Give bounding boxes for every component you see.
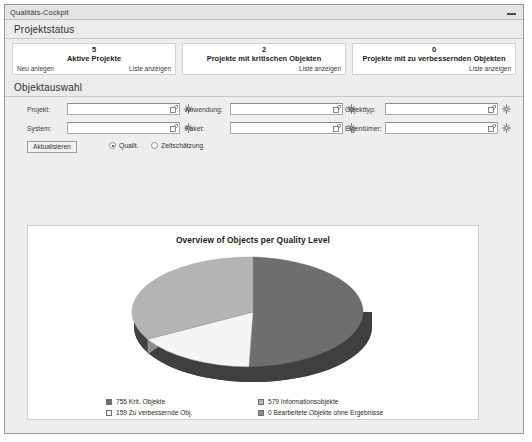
tile-link-list[interactable]: Liste anzeigen xyxy=(469,65,511,72)
anwendung-input[interactable] xyxy=(230,103,343,115)
field-label-anwendung: Anwendung: xyxy=(185,106,230,113)
tile-count: 0 xyxy=(353,45,515,54)
legend-entry-bearbeitete-objekte: 0 Bearbeitete Objekte ohne Ergebnisse xyxy=(258,409,436,416)
field-input-wrap-anwendung xyxy=(230,103,343,115)
quality-cockpit-window: Qualitäts-Cockpit Projektstatus 5 Aktive… xyxy=(4,4,524,434)
tile-link-new[interactable]: Neu anlegen xyxy=(17,65,54,72)
legend-swatch xyxy=(258,399,264,405)
legend-entry-zu-verbessernde-obj: 159 Zu verbessernde Obj. xyxy=(106,409,258,416)
legend-swatch xyxy=(106,399,112,405)
pie-chart-svg xyxy=(131,254,375,382)
field-row-2: System: xyxy=(5,122,523,141)
legend-swatch xyxy=(106,410,112,416)
system-input[interactable] xyxy=(67,122,180,134)
tile-label: Projekte mit kritischen Objekten xyxy=(183,54,345,63)
personalize-icon[interactable] xyxy=(502,104,511,114)
tile-count: 5 xyxy=(13,45,175,54)
status-tile-improvable-objects[interactable]: 0 Projekte mit zu verbessernden Objekten… xyxy=(352,43,516,75)
radio-dot-unselected[interactable] xyxy=(151,142,158,149)
field-input-wrap-system xyxy=(67,122,180,134)
tile-label: Projekte mit zu verbessernden Objekten xyxy=(353,54,515,63)
field-input-wrap-projekt xyxy=(67,103,180,115)
tile-label: Aktive Projekte xyxy=(13,54,175,63)
legend-label: 159 Zu verbessernde Obj. xyxy=(116,409,192,416)
field-label-system: System: xyxy=(27,125,67,132)
radio-option-qualitaet[interactable]: Qualit. xyxy=(109,142,139,149)
paket-input[interactable] xyxy=(230,122,343,134)
field-input-wrap-objekttyp xyxy=(385,103,498,115)
field-system: System: xyxy=(27,122,193,134)
field-anwendung: Anwendung: xyxy=(185,103,356,115)
object-selection-title: Objektauswahl xyxy=(14,82,82,93)
field-label-paket: Paket: xyxy=(185,125,230,132)
personalize-icon[interactable] xyxy=(502,123,511,133)
tile-link-list[interactable]: Liste anzeigen xyxy=(299,65,341,72)
status-tile-critical-objects[interactable]: 2 Projekte mit kritischen Objekten Liste… xyxy=(182,43,346,75)
field-objekttyp: Objekttyp: xyxy=(345,103,511,115)
object-selection-form: Projekt: xyxy=(5,97,523,157)
value-help-icon[interactable] xyxy=(333,124,341,132)
radio-label-zeitschaetzung: Zeitschätzung xyxy=(161,142,203,149)
value-help-icon[interactable] xyxy=(170,105,178,113)
tile-count: 2 xyxy=(183,45,345,54)
legend-swatch xyxy=(258,410,264,416)
window-title-bar: Qualitäts-Cockpit xyxy=(5,5,523,20)
radio-option-zeitschaetzung[interactable]: Zeitschätzung xyxy=(151,142,203,149)
field-label-eigentuemer: Eigentümer: xyxy=(345,125,385,132)
project-status-header: Projektstatus xyxy=(5,20,523,39)
value-help-icon[interactable] xyxy=(333,105,341,113)
legend-entry-informationsobjekte: 579 Informationsobjekte xyxy=(258,398,436,405)
tile-link-list[interactable]: Liste anzeigen xyxy=(129,65,171,72)
chart-title: Overview of Objects per Quality Level xyxy=(28,235,478,245)
legend-label: 0 Bearbeitete Objekte ohne Ergebnisse xyxy=(268,409,383,416)
field-projekt: Projekt: xyxy=(27,103,193,115)
action-row: Aktualisieren Qualit. Zeitschätzung xyxy=(5,141,523,157)
pie-top-face xyxy=(132,257,363,367)
status-tile-active-projects[interactable]: 5 Aktive Projekte Neu anlegen Liste anze… xyxy=(12,43,176,75)
objekttyp-input[interactable] xyxy=(385,103,498,115)
legend-label: 755 Krit. Objekte xyxy=(116,398,165,405)
object-selection-header: Objektauswahl xyxy=(5,78,523,97)
field-label-objekttyp: Objekttyp: xyxy=(345,106,385,113)
legend-entry-krit-objekte: 755 Krit. Objekte xyxy=(106,398,258,405)
field-row-1: Projekt: xyxy=(5,103,523,122)
field-input-wrap-paket xyxy=(230,122,343,134)
projekt-input[interactable] xyxy=(67,103,180,115)
legend-label: 579 Informationsobjekte xyxy=(268,398,338,405)
field-input-wrap-eigentuemer xyxy=(385,122,498,134)
value-help-icon[interactable] xyxy=(488,105,496,113)
pie-chart xyxy=(131,254,375,382)
radio-label-qualitaet: Qualit. xyxy=(119,142,139,149)
minimize-dash xyxy=(507,13,516,15)
value-help-icon[interactable] xyxy=(488,124,496,132)
chart-panel: Overview of Objects per Quality Level xyxy=(27,225,479,420)
project-status-title: Projektstatus xyxy=(14,24,74,35)
status-tiles-container: 5 Aktive Projekte Neu anlegen Liste anze… xyxy=(5,39,523,78)
field-paket: Paket: xyxy=(185,122,356,134)
minimize-icon[interactable] xyxy=(506,7,518,18)
field-eigentuemer: Eigentümer: xyxy=(345,122,511,134)
value-help-icon[interactable] xyxy=(170,124,178,132)
chart-legend: 755 Krit. Objekte 579 Informationsobjekt… xyxy=(106,396,436,418)
window-title: Qualitäts-Cockpit xyxy=(10,8,69,17)
refresh-button[interactable]: Aktualisieren xyxy=(27,141,77,153)
eigentuemer-input[interactable] xyxy=(385,122,498,134)
field-label-projekt: Projekt: xyxy=(27,106,67,113)
radio-dot-selected[interactable] xyxy=(109,142,116,149)
